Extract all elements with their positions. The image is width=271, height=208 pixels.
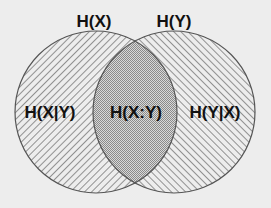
label-mutual-information: H(X:Y) [110,103,162,122]
label-hx-given-y: H(X|Y) [24,103,75,122]
venn-diagram: H(X) H(Y) H(X|Y) H(X:Y) H(Y|X) [0,0,271,208]
label-hy-given-x: H(Y|X) [189,103,240,122]
label-hx: H(X) [77,12,112,31]
label-hy: H(Y) [157,12,192,31]
